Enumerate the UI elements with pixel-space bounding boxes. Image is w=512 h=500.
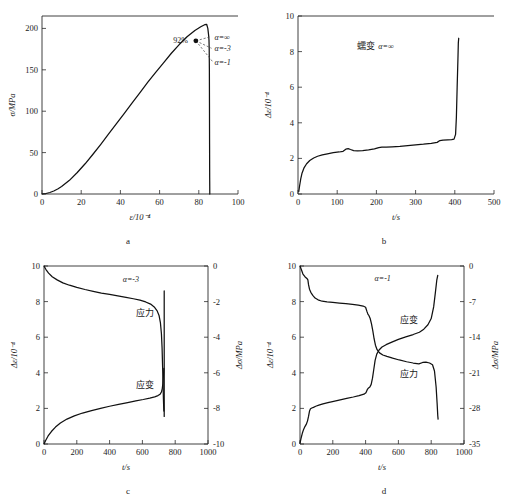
chart-svg-d: 0200400600800100002468100-7-14-21-28-35Δ… — [256, 250, 512, 500]
chart-annotation: 应变 — [136, 379, 154, 390]
x-tick-label: 400 — [448, 197, 461, 207]
y-tick-label-right: 0 — [469, 261, 473, 271]
chart-annotation: 92% — [173, 36, 188, 45]
y-tick-label: 0 — [292, 439, 296, 449]
x-tick-label: 80 — [195, 197, 204, 207]
x-tick-label: 600 — [136, 447, 149, 457]
chart-annotation: 应力 — [136, 307, 154, 318]
y-tick-label: 10 — [286, 11, 295, 21]
chart-annotation: α=-3 — [214, 44, 230, 53]
x-tick-label: 200 — [326, 447, 339, 457]
y-tick-label-right: -14 — [469, 332, 481, 342]
y-tick-label: 8 — [292, 297, 296, 307]
series-curve — [300, 266, 438, 419]
y-tick-label: 100 — [25, 106, 38, 116]
y-tick-label: 8 — [36, 297, 40, 307]
series-curve — [299, 38, 459, 191]
peak-marker-dot — [193, 38, 198, 43]
y-tick-label-right: -2 — [213, 297, 220, 307]
y-tick-label-right: -28 — [469, 403, 480, 413]
y-tick-label: 0 — [36, 439, 40, 449]
y-tick-label: 6 — [290, 82, 294, 92]
panel-caption-b: b — [382, 236, 387, 246]
chart-annotation: α=∞ — [214, 33, 230, 42]
panel-caption-a: a — [126, 236, 130, 246]
x-tick-label: 0 — [296, 197, 300, 207]
y-tick-label: 4 — [292, 368, 297, 378]
chart-panel-c: 0200400600800100002468100-2-4-6-8-10Δσ/M… — [0, 250, 256, 500]
y-tick-label: 50 — [30, 148, 39, 158]
x-tick-label: 0 — [298, 447, 302, 457]
y-tick-label: 6 — [292, 332, 296, 342]
x-tick-label: 60 — [155, 197, 164, 207]
x-tick-label: 0 — [40, 197, 44, 207]
x-tick-label: 300 — [409, 197, 422, 207]
y-tick-label-right: -7 — [469, 297, 476, 307]
x-tick-label: 200 — [370, 197, 383, 207]
chart-annotation: α=-1 — [214, 58, 230, 67]
x-tick-label: 40 — [116, 197, 125, 207]
y-tick-label: 2 — [36, 403, 40, 413]
plot-frame — [44, 266, 208, 444]
x-tick-label: 600 — [392, 447, 405, 457]
x-axis-title: t/s — [378, 462, 387, 472]
series-curve — [42, 24, 210, 194]
y-tick-label: 10 — [288, 261, 297, 271]
panel-caption-c: c — [126, 486, 130, 496]
figure-container: 020406080100050100150200ε/10⁻⁴σ/MPa92%α=… — [0, 0, 512, 500]
panel-caption-d: d — [382, 486, 387, 496]
y-tick-label-right: -8 — [213, 403, 220, 413]
chart-panel-a: 020406080100050100150200ε/10⁻⁴σ/MPa92%α=… — [0, 0, 256, 250]
y-tick-label: 200 — [25, 23, 38, 33]
y-tick-label-right: -6 — [213, 368, 220, 378]
chart-annotation: 蠕变 — [357, 40, 375, 51]
x-axis-title: t/s — [122, 462, 131, 472]
y-axis-title: Δε/10⁻⁴ — [265, 342, 275, 369]
y-tick-label: 8 — [290, 47, 294, 57]
x-tick-label: 800 — [169, 447, 182, 457]
x-axis-title: ε/10⁻⁴ — [129, 212, 150, 222]
x-tick-label: 200 — [70, 447, 83, 457]
x-tick-label: 400 — [359, 447, 372, 457]
chart-annotation: 应力 — [400, 368, 418, 379]
chart-svg-c: 0200400600800100002468100-2-4-6-8-10Δσ/M… — [0, 250, 256, 500]
y-tick-label: 6 — [36, 332, 40, 342]
chart-annotation: 应变 — [400, 314, 418, 325]
x-tick-label: 100 — [331, 197, 344, 207]
y-tick-label: 0 — [34, 189, 38, 199]
y-tick-label: 2 — [292, 403, 296, 413]
y-tick-label: 10 — [32, 261, 41, 271]
x-tick-label: 20 — [77, 197, 86, 207]
chart-svg-a: 020406080100050100150200ε/10⁻⁴σ/MPa92%α=… — [0, 0, 256, 250]
x-tick-label: 800 — [425, 447, 438, 457]
y-tick-label: 4 — [36, 368, 41, 378]
y-tick-label: 150 — [25, 65, 38, 75]
x-axis-title: t/s — [392, 212, 401, 222]
y-axis-title-right: Δσ/MPa — [234, 341, 244, 370]
chart-annotation: α=-1 — [375, 274, 391, 283]
x-tick-label: 400 — [103, 447, 116, 457]
y-tick-label-right: -10 — [213, 439, 224, 449]
plot-frame — [298, 16, 494, 194]
chart-svg-b: 01002003004005000246810t/sΔε/10⁻⁴蠕变α=∞b — [256, 0, 512, 250]
x-tick-label: 100 — [232, 197, 245, 207]
annotation-leader-lines — [196, 37, 213, 62]
y-axis-title-right: Δσ/MPa — [490, 341, 500, 370]
y-axis-title: Δε/10⁻⁴ — [263, 92, 273, 119]
y-tick-label-right: 0 — [213, 261, 217, 271]
y-axis-title: σ/MPa — [7, 93, 17, 116]
chart-panel-b: 01002003004005000246810t/sΔε/10⁻⁴蠕变α=∞b — [256, 0, 512, 250]
chart-annotation: α=-3 — [123, 275, 139, 284]
y-tick-label: 4 — [290, 118, 295, 128]
chart-annotation: α=∞ — [378, 42, 394, 51]
y-tick-label-right: -35 — [469, 439, 480, 449]
y-tick-label-right: -4 — [213, 332, 221, 342]
chart-panel-d: 0200400600800100002468100-7-14-21-28-35Δ… — [256, 250, 512, 500]
y-tick-label: 2 — [290, 153, 294, 163]
y-axis-title: Δε/10⁻⁴ — [9, 342, 19, 369]
x-tick-label: 500 — [488, 197, 501, 207]
x-tick-label: 0 — [42, 447, 46, 457]
y-tick-label-right: -21 — [469, 368, 480, 378]
y-tick-label: 0 — [290, 189, 294, 199]
